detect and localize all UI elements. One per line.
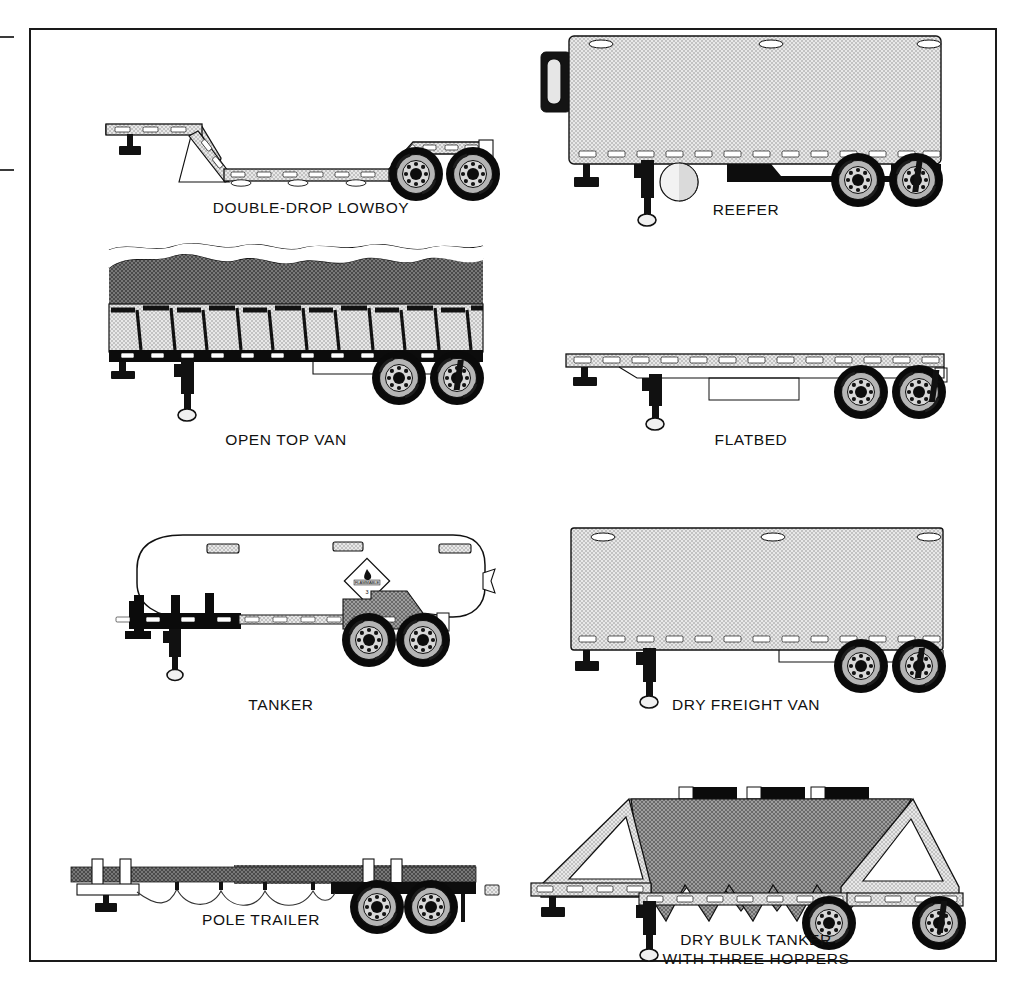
crop-tick-mid-left	[0, 169, 14, 171]
caption-pole-trailer: POLE TRAILER	[141, 910, 381, 929]
figure-pole-trailer	[69, 845, 499, 945]
caption-flatbed: FLATBED	[641, 430, 861, 449]
figure-flatbed	[531, 330, 961, 440]
figure-dry-bulk-tanker	[511, 775, 981, 955]
caption-dry-bulk-tanker: DRY BULK TANKERWITH THREE HOPPERS	[591, 930, 921, 968]
illustration-page: DOUBLE-DROP LOWBOY	[0, 0, 1025, 1002]
crop-tick-top-left	[0, 36, 14, 38]
caption-double-drop-lowboy: DOUBLE-DROP LOWBOY	[151, 198, 471, 217]
caption-line-1: DRY BULK TANKER	[680, 931, 832, 948]
caption-dry-freight-van: DRY FREIGHT VAN	[621, 695, 871, 714]
caption-tanker: TANKER	[181, 695, 381, 714]
caption-reefer: REEFER	[631, 200, 861, 219]
plate-frame: DOUBLE-DROP LOWBOY	[29, 28, 997, 962]
figure-dry-freight-van	[531, 520, 961, 690]
caption-open-top-van: OPEN TOP VAN	[161, 430, 411, 449]
figure-tanker: FLAMMABLE 3	[71, 525, 501, 685]
svg-text:3: 3	[365, 589, 368, 595]
svg-text:FLAMMABLE: FLAMMABLE	[355, 580, 380, 585]
figure-reefer	[531, 30, 961, 205]
figure-open-top-van	[69, 238, 499, 418]
caption-line-2: WITH THREE HOPPERS	[662, 950, 849, 967]
